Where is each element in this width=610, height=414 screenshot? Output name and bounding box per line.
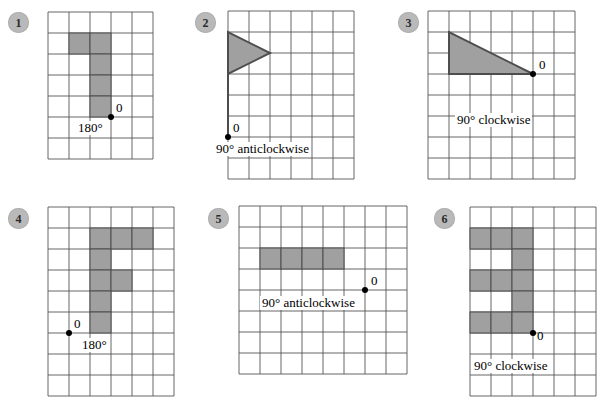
- rotation-label-4: 180°: [80, 338, 109, 352]
- shape-6: [470, 228, 533, 333]
- panel-3: 3 0: [395, 0, 610, 190]
- rotation-label-1: 180°: [76, 121, 105, 135]
- rotation-label-2: 90° anticlockwise: [214, 142, 311, 156]
- origin-point-2: [225, 134, 231, 140]
- shape-5: [260, 248, 344, 269]
- rotation-label-6: 90° clockwise: [472, 359, 549, 373]
- panel-5: 5: [205, 195, 420, 414]
- rotation-label-5: 90° anticlockwise: [260, 296, 357, 310]
- origin-point-6: [530, 330, 536, 336]
- grid-1: [0, 0, 200, 190]
- panel-4: 4: [0, 195, 205, 414]
- shape-4: [90, 228, 153, 333]
- rotation-label-3: 90° clockwise: [455, 113, 532, 127]
- origin-point-4: [66, 330, 72, 336]
- origin-point-3: [530, 71, 536, 77]
- grid-3: [395, 0, 610, 190]
- origin-label-6: 0: [537, 329, 544, 342]
- grid-lines-5: [239, 206, 407, 374]
- grid-2: [190, 0, 405, 190]
- origin-label-2: 0: [233, 121, 240, 134]
- panel-6: 6: [410, 195, 610, 414]
- origin-point-5: [362, 287, 368, 293]
- grid-4: [0, 195, 205, 414]
- panel-2: 2 0: [190, 0, 405, 190]
- rotations-worksheet: 1: [0, 0, 610, 414]
- panel-1: 1: [0, 0, 200, 190]
- origin-label-5: 0: [371, 274, 378, 287]
- origin-label-4: 0: [74, 317, 81, 330]
- grid-6: [410, 195, 610, 414]
- origin-label-3: 0: [539, 58, 546, 71]
- origin-label-1: 0: [116, 101, 123, 114]
- origin-point-1: [108, 114, 114, 120]
